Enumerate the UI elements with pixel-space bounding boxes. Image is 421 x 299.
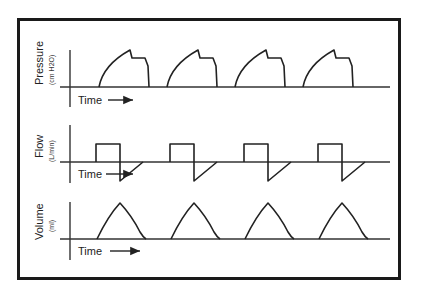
pressure-axis-title: Pressure [33, 41, 45, 85]
flow-time-label: Time [78, 168, 102, 180]
ventilator-waveforms-diagram: Pressure (cm H2O) Time Flow (L/min) Time… [0, 0, 421, 299]
pressure-panel: Pressure (cm H2O) Time [33, 41, 390, 107]
volume-waveforms [97, 203, 368, 239]
volume-time-label: Time [78, 245, 102, 257]
pressure-axis-unit: (cm H2O) [48, 55, 56, 85]
volume-axis-unit: (ml) [48, 220, 56, 232]
flow-axis-title: Flow [33, 135, 45, 158]
pressure-time-label: Time [78, 94, 102, 106]
flow-axis-unit: (L/min) [48, 140, 56, 162]
pressure-waveforms [99, 50, 353, 87]
flow-panel: Flow (L/min) Time [33, 125, 390, 183]
volume-panel: Volume (ml) Time [33, 202, 390, 260]
volume-axis-title: Volume [33, 203, 45, 240]
